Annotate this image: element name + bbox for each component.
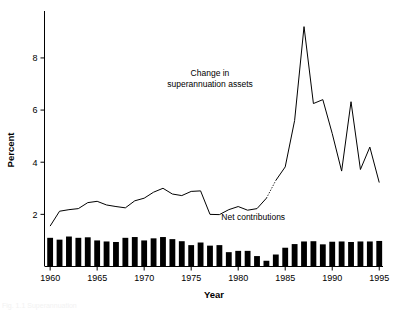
bar [273,255,279,267]
line-segment-dotted [266,180,275,198]
bar [179,241,185,266]
bar [75,238,81,267]
bar [254,256,260,266]
bar [66,237,72,267]
superannuation-change-line [50,27,379,226]
x-tick-label: 1980 [228,273,248,283]
line-series-label: superannuation assets [167,79,253,89]
bar [367,241,373,266]
x-axis-title: Year [204,289,224,300]
bar [226,252,232,266]
bar [169,239,175,266]
bar [235,251,241,267]
bar [47,238,53,267]
bar [245,251,251,267]
bar [358,241,364,266]
line-series-label: Change in [191,68,230,78]
bar [311,241,317,266]
bar [320,244,326,266]
bar [94,240,100,266]
bar [132,237,138,266]
bar [57,240,63,267]
x-tick-label: 1965 [87,273,107,283]
y-tick-label: 2 [32,210,37,220]
bar [292,244,298,266]
bar [207,246,213,267]
x-tick-label: 1975 [181,273,201,283]
chart-axes [45,11,384,267]
bar [301,241,307,266]
bar [141,240,147,266]
line-segment-solid [276,27,379,183]
bar [263,261,269,267]
bar [104,241,110,266]
y-axis-title: Percent [5,132,16,168]
x-tick-label: 1985 [275,273,295,283]
y-axis-ticks: 2468 [32,53,44,219]
clipped-caption: Fig. 1.1 Superannuation [2,301,142,310]
superannuation-chart: 2468 19601965197019751980198519901995 Pe… [0,0,399,310]
bar [282,248,288,267]
bar [198,243,204,267]
bar [122,238,128,267]
x-axis-ticks: 19601965197019751980198519901995 [40,267,389,283]
bar [348,242,354,267]
x-tick-label: 1970 [134,273,154,283]
bar [376,241,382,267]
bar [85,237,91,266]
chart-figure: 2468 19601965197019751980198519901995 Pe… [0,0,399,310]
bar [160,237,166,266]
bar [188,245,194,266]
bar [329,242,335,267]
x-tick-label: 1995 [369,273,389,283]
chart-annotations: Change insuperannuation assetsNet contri… [167,68,285,222]
bar [113,242,119,267]
bar [151,238,157,266]
bar [216,245,222,266]
bar [339,241,345,266]
y-tick-label: 6 [32,105,37,115]
x-tick-label: 1960 [40,273,60,283]
y-tick-label: 4 [32,158,37,168]
net-contributions-bars [47,237,382,267]
bar-series-label: Net contributions [221,212,285,222]
y-tick-label: 8 [32,53,37,63]
x-tick-label: 1990 [322,273,342,283]
